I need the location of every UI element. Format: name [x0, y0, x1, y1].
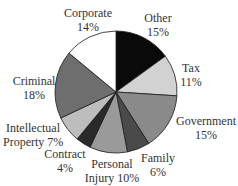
- label-intellectual-property-line2: Property 7%: [3, 135, 63, 149]
- label-corporate-pct: 14%: [58, 20, 118, 34]
- label-criminal: Criminal 18%: [12, 74, 56, 102]
- label-corporate-name: Corporate: [58, 6, 118, 20]
- label-personal-injury: Personal Injury 10%: [84, 157, 140, 185]
- label-other-pct: 15%: [136, 25, 180, 39]
- label-tax-name: Tax: [176, 61, 206, 75]
- label-other: Other 15%: [136, 11, 180, 39]
- label-intellectual-property-line1: Intellectual: [3, 121, 63, 135]
- label-tax-pct: 11%: [176, 75, 206, 89]
- label-tax: Tax 11%: [176, 61, 206, 89]
- label-family: Family 6%: [138, 151, 178, 179]
- label-personal-injury-line2: Injury 10%: [84, 171, 140, 185]
- label-intellectual-property: Intellectual Property 7%: [3, 121, 63, 149]
- label-government: Government 15%: [174, 114, 238, 142]
- label-criminal-name: Criminal: [12, 74, 56, 88]
- label-family-name: Family: [138, 151, 178, 165]
- label-corporate: Corporate 14%: [58, 6, 118, 34]
- label-family-pct: 6%: [138, 165, 178, 179]
- label-personal-injury-line1: Personal: [84, 157, 140, 171]
- label-other-name: Other: [136, 11, 180, 25]
- label-contract-name: Contract: [40, 147, 90, 161]
- label-contract-pct: 4%: [40, 161, 90, 175]
- label-contract: Contract 4%: [40, 147, 90, 175]
- label-government-pct: 15%: [174, 128, 238, 142]
- pie-slices: [55, 31, 177, 153]
- label-criminal-pct: 18%: [12, 88, 56, 102]
- label-government-name: Government: [174, 114, 238, 128]
